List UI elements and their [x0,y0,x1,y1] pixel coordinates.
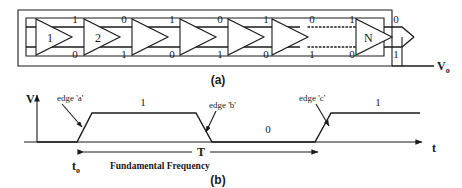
signal-digit-top: 1 [169,13,175,25]
signal-digit-top: 1 [263,13,269,25]
figure-svg: 1 2 N [0,0,462,188]
signal-digit-bottom: 1 [393,48,399,60]
inverter-label: 1 [47,31,53,45]
figure-ring-oscillator: 1 2 N [0,0,462,188]
inverter-triangle [228,19,264,55]
signal-digit-top: 0 [393,13,399,25]
edge-b-leader [206,111,216,132]
inverter-triangle [356,19,392,55]
signal-digit-bottom: 1 [309,48,315,60]
level-label-low: 0 [265,123,271,135]
signal-digit-bottom: 0 [263,48,269,60]
voltage-axis-label: V [26,92,35,106]
signal-digit-bottom: 0 [349,48,355,60]
edge-a-leader [62,104,82,127]
inverter-stage-4 [180,19,216,55]
signal-digit-top: 1 [72,13,78,25]
panel-a-caption: (a) [211,73,226,87]
inverter-stage-5 [228,19,264,55]
output-voltage-label: Vo [437,59,450,75]
panel-a-schematic: 1 2 N [18,10,450,87]
signal-digit-bottom: 1 [121,48,127,60]
signal-digit-bottom: 0 [169,48,175,60]
origin-time-label: to [72,159,80,175]
inverter-stage-6 [272,19,308,55]
level-label-high-first: 1 [140,96,146,108]
panel-b-caption: (b) [210,173,225,187]
signal-digit-top: 0 [121,13,127,25]
fundamental-frequency-label: Fundamental Frequency [110,161,210,171]
signal-digit-bottom: 0 [72,48,78,60]
inverter-triangle [84,19,120,55]
inverter-triangle [132,19,168,55]
edge-a-label: edge 'a' [57,93,84,103]
signal-digit-top: 1 [349,13,355,25]
inverter-stage-2: 2 [84,19,120,55]
edge-c-label: edge 'c' [299,93,326,103]
time-axis-label: t [432,141,436,155]
waveform-trace [37,113,420,142]
signal-digit-top: 0 [309,13,315,25]
inverter-label: N [364,31,373,45]
inverter-stage-n: N [356,19,392,55]
inverter-triangle [180,19,216,55]
signal-digit-top: 0 [217,13,223,25]
panel-b-waveform: V t 1 0 1 edge 'a' edge 'b' edge 'c' T t… [24,92,436,187]
inverter-triangle [36,19,72,55]
edge-b-label: edge 'b' [209,100,236,110]
inverter-label: 2 [95,31,101,45]
inverter-stage-1: 1 [36,19,72,55]
edge-c-leader [316,104,329,126]
inverter-stage-3 [132,19,168,55]
inverter-triangle [272,19,308,55]
period-label: T [197,145,205,159]
signal-digit-bottom: 1 [217,48,223,60]
level-label-high-second: 1 [375,96,381,108]
